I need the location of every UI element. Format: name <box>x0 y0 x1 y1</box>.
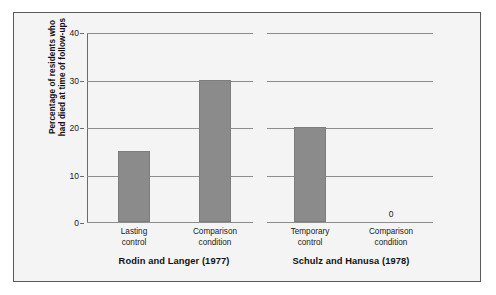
y-axis-tick-0: 0 <box>58 218 84 228</box>
y-axis-tick-20: 20 <box>58 123 84 133</box>
group-title-schulz-hanusa: Schulz and Hanusa (1978) <box>251 256 451 266</box>
chart-figure-frame: Percentage of residents who had died at … <box>13 12 481 282</box>
category-label-line-1: Comparison <box>167 227 263 238</box>
y-axis-tick-10: 10 <box>58 171 84 181</box>
y-axis-label-line-1: Percentage of residents who <box>48 20 58 134</box>
gridline-20-right <box>267 128 433 129</box>
bar-lasting-control[interactable] <box>118 151 150 222</box>
y-axis-tick-labels: 0 10 20 30 40 <box>58 33 84 223</box>
chart-panel-rodin-langer <box>87 33 253 223</box>
gridline-30-right <box>267 81 433 82</box>
chart-panel-schulz-hanusa: 0 <box>267 33 433 223</box>
gridline-10-right <box>267 176 433 177</box>
y-axis-tick-40: 40 <box>58 28 84 38</box>
baseline-right <box>267 222 433 223</box>
category-label-comparison-condition-rodin: Comparison condition <box>167 227 263 248</box>
gridline-40-left <box>87 33 253 34</box>
bar-temporary-control[interactable] <box>294 127 326 222</box>
category-label-line-2: condition <box>343 238 439 249</box>
baseline-left <box>87 222 253 223</box>
gridline-40-right <box>267 33 433 34</box>
bar-value-label-comparison-condition-schulz: 0 <box>389 209 394 219</box>
category-label-comparison-condition-schulz: Comparison condition <box>343 227 439 248</box>
category-label-line-2: condition <box>167 238 263 249</box>
y-axis-tick-30: 30 <box>58 76 84 86</box>
bar-comparison-condition-rodin[interactable] <box>199 80 231 223</box>
category-label-line-1: Comparison <box>343 227 439 238</box>
group-title-rodin-langer: Rodin and Langer (1977) <box>74 256 274 266</box>
